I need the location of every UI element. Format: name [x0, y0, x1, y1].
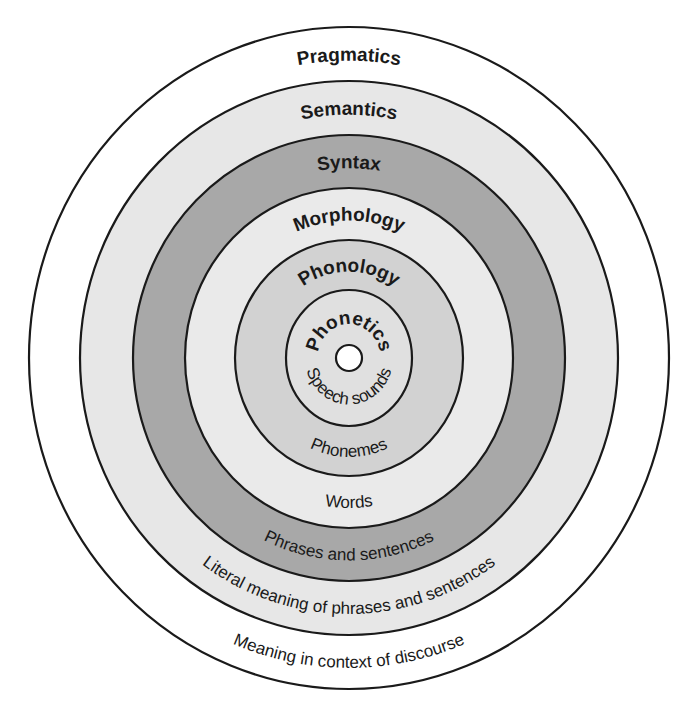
label-syntax-title: Syntax — [316, 151, 383, 175]
center-hole — [336, 345, 362, 371]
linguistics-levels-diagram: Pragmatics Semantics Syntax Morphology P… — [0, 0, 696, 706]
label-morphology-desc: Words — [324, 491, 374, 512]
